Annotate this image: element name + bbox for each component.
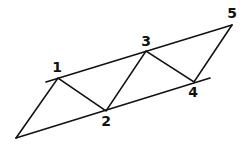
label-3: 3 <box>141 33 151 49</box>
zigzag-diagram: 1 2 3 4 5 <box>0 0 249 152</box>
label-4: 4 <box>188 84 198 100</box>
label-5: 5 <box>227 5 237 21</box>
label-1: 1 <box>52 59 62 75</box>
upper-parallel-line <box>46 25 232 82</box>
lower-parallel-line <box>16 78 210 138</box>
label-2: 2 <box>101 113 111 129</box>
